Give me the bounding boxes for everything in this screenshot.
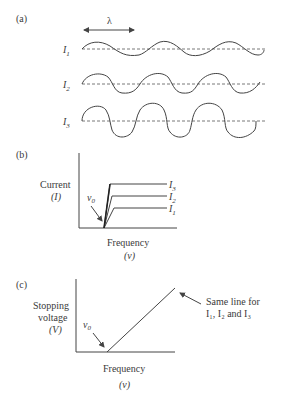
panel-a-label: (a) xyxy=(16,13,27,25)
nu0-label-b: ν0 xyxy=(87,192,95,205)
panel-c-label: (c) xyxy=(16,279,27,291)
current-label: Current xyxy=(40,179,71,190)
nu0-arrow-b xyxy=(91,206,102,221)
panel-a: (a) λ I1 I2 I3 xyxy=(16,13,267,138)
panel-b-label: (b) xyxy=(16,149,28,161)
label-i1: I1 xyxy=(168,203,176,217)
voltage-label: voltage xyxy=(38,312,68,323)
svg-text:I2: I2 xyxy=(62,79,70,93)
svg-text:I1: I1 xyxy=(62,44,70,58)
lambda-symbol: λ xyxy=(107,15,112,26)
current-symbol: (I) xyxy=(51,191,62,203)
curve-i1 xyxy=(104,208,167,228)
stopping-voltage-line xyxy=(107,288,175,352)
annotation-arrow xyxy=(180,293,201,304)
curve-i2 xyxy=(104,196,167,228)
annotation-line2: I₁, I₂ and I₃ xyxy=(206,308,251,319)
frequency-label-c: Frequency xyxy=(103,363,145,374)
panel-b: (b) Current (I) I3 I2 I1 ν0 Frequency (ν… xyxy=(16,149,177,262)
wave-i2: I2 xyxy=(62,73,267,93)
panel-c: (c) Stopping voltage (V) ν0 Same line fo… xyxy=(16,279,261,391)
voltage-symbol: (V) xyxy=(49,324,62,336)
curve-i3 xyxy=(104,184,167,228)
annotation-line1: Same line for xyxy=(206,296,261,307)
frequency-label-b: Frequency xyxy=(107,237,149,248)
stopping-label: Stopping xyxy=(33,300,69,311)
svg-text:I3: I3 xyxy=(62,116,70,130)
wave-i1: I1 xyxy=(62,41,267,58)
frequency-symbol-b: (ν) xyxy=(124,250,136,262)
wave-i3: I3 xyxy=(62,103,267,137)
photoelectric-figure: (a) λ I1 I2 I3 (b) Current (I) xyxy=(0,0,283,399)
frequency-symbol-c: (ν) xyxy=(119,379,131,391)
wavelength-arrow: λ xyxy=(84,15,134,30)
nu0-arrow-c xyxy=(93,333,104,347)
nu0-label-c: ν0 xyxy=(83,319,91,332)
